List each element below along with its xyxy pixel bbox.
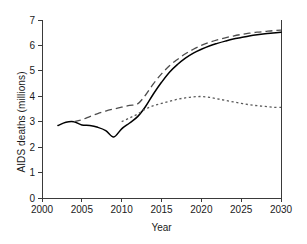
series-line-dotted <box>122 97 281 122</box>
y-tick-label: 0 <box>29 193 35 204</box>
x-tick-marks <box>42 198 281 202</box>
x-tick-label: 2020 <box>190 204 213 215</box>
y-tick-labels: 01234567 <box>29 15 35 204</box>
chart-figure: AIDS deaths (millions) 01234567 20002005… <box>0 0 307 244</box>
y-tick-label: 2 <box>29 142 35 153</box>
series-line-long-dashed <box>74 30 281 122</box>
x-tick-label: 2030 <box>270 204 293 215</box>
x-tick-label: 2010 <box>111 204 134 215</box>
x-tick-label: 2005 <box>71 204 94 215</box>
y-tick-label: 6 <box>29 40 35 51</box>
y-tick-label: 7 <box>29 15 35 26</box>
x-tick-labels: 2000200520102015202020252030 <box>31 204 293 215</box>
x-tick-label: 2000 <box>31 204 54 215</box>
chart-plot-area: 01234567 2000200520102015202020252030 <box>0 0 307 244</box>
y-tick-label: 1 <box>29 167 35 178</box>
series-line-solid <box>58 32 281 137</box>
x-axis-label: Year <box>42 222 281 233</box>
y-tick-label: 5 <box>29 65 35 76</box>
y-tick-label: 3 <box>29 116 35 127</box>
y-tick-label: 4 <box>29 91 35 102</box>
x-tick-label: 2025 <box>230 204 253 215</box>
y-tick-marks <box>38 20 42 198</box>
x-tick-label: 2015 <box>150 204 173 215</box>
